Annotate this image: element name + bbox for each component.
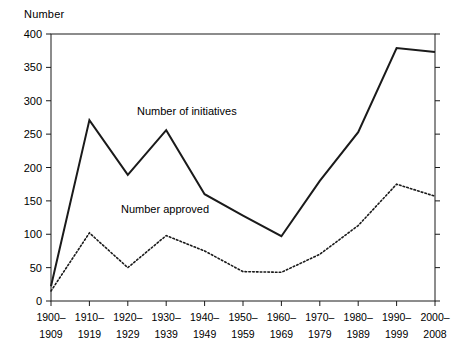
x-tick-label: 1979: [308, 328, 332, 340]
y-tick-label: 50: [30, 262, 42, 274]
x-tick-label: 1999: [385, 328, 409, 340]
y-tick-label: 150: [24, 195, 42, 207]
x-tick-label: 2008: [423, 328, 447, 340]
x-tick-label: 1960–: [267, 311, 296, 323]
y-tick-label: 250: [24, 128, 42, 140]
series-annotations: Number of initiativesNumber approved: [121, 105, 237, 215]
series-annotation-label: Number approved: [121, 203, 209, 215]
x-tick-label: 1910–: [75, 311, 104, 323]
y-tick-label: 100: [24, 228, 42, 240]
x-tick-label: 1970–: [305, 311, 334, 323]
x-tick-label: 1909: [39, 328, 63, 340]
series-lines: [51, 48, 435, 291]
chart-container: Number 050100150200250300350400 1900–190…: [0, 0, 451, 347]
x-tick-label: 1950–: [228, 311, 257, 323]
x-tick-label: 1900–: [36, 311, 65, 323]
series-annotation-label: Number of initiatives: [137, 105, 237, 117]
chart-svg: 050100150200250300350400 1900–19091910–1…: [0, 0, 451, 347]
x-tick-label: 2000–: [420, 311, 449, 323]
x-tick-label: 1969: [270, 328, 294, 340]
x-tick-label: 1980–: [344, 311, 373, 323]
x-tick-label: 1920–: [113, 311, 142, 323]
x-tick-label: 1929: [116, 328, 140, 340]
x-tick-label: 1930–: [152, 311, 181, 323]
series-line-dotted: [51, 184, 435, 291]
y-tick-label: 350: [24, 61, 42, 73]
y-tick-label: 0: [36, 295, 42, 307]
x-tick-label: 1949: [193, 328, 217, 340]
y-tick-label: 400: [24, 28, 42, 40]
x-tick-label: 1919: [78, 328, 102, 340]
x-tick-label: 1959: [231, 328, 255, 340]
y-tick-label: 300: [24, 95, 42, 107]
x-tick-label: 1940–: [190, 311, 219, 323]
plot-frame: [51, 34, 435, 301]
x-tick-label: 1989: [347, 328, 371, 340]
x-tick-label: 1939: [155, 328, 179, 340]
x-tick-label: 1990–: [382, 311, 411, 323]
x-axis-ticks: 1900–19091910–19191920–19291930–19391940…: [36, 301, 449, 340]
y-tick-label: 200: [24, 162, 42, 174]
